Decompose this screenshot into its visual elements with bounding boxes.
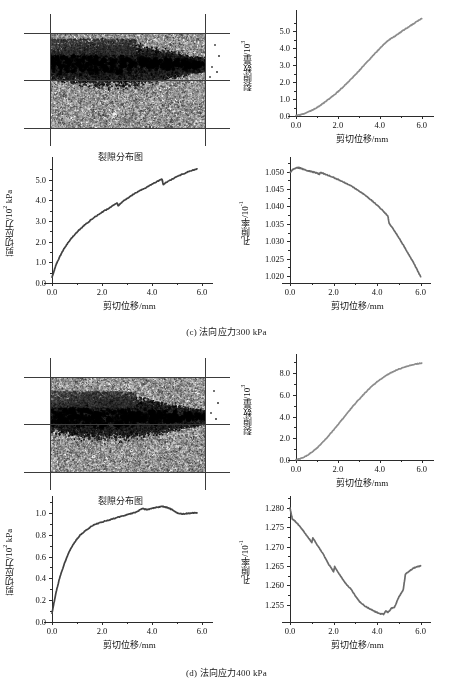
stray-particle bbox=[218, 55, 220, 57]
stray-particle bbox=[210, 412, 212, 414]
shear-box-c bbox=[18, 8, 223, 148]
panel-caption-c: (c) 法向应力300 kPa bbox=[0, 325, 453, 338]
stray-particle bbox=[209, 76, 211, 78]
crack-distribution-figure-c: 裂隙分布图 bbox=[18, 8, 223, 148]
curve-svg bbox=[232, 155, 453, 320]
plot-area: 0.02.04.06.00.02.04.06.08.0剪切位移/mm裂隙数量/1… bbox=[238, 350, 453, 495]
plot-area: 0.02.04.06.00.01.02.03.04.05.0剪切位移/mm剪切应… bbox=[0, 155, 230, 320]
data-curve bbox=[52, 506, 197, 613]
plot-crack-number-d: 0.02.04.06.00.02.04.06.08.0剪切位移/mm裂隙数量/1… bbox=[238, 350, 453, 495]
stray-particle bbox=[216, 71, 218, 73]
plot-crack-number-c: 0.02.04.06.00.01.02.03.04.05.0剪切位移/mm裂隙数… bbox=[238, 6, 453, 151]
curve-svg bbox=[0, 155, 230, 320]
plot-shear-stress-c: 0.02.04.06.00.01.02.03.04.05.0剪切位移/mm剪切应… bbox=[0, 155, 230, 320]
curve-svg bbox=[0, 494, 230, 659]
shear-box-mid-plate-c bbox=[24, 80, 230, 81]
stray-particle bbox=[215, 418, 217, 420]
data-curve bbox=[290, 508, 421, 615]
curve-svg bbox=[238, 6, 453, 151]
stray-particle bbox=[211, 66, 213, 68]
curve-svg bbox=[238, 350, 453, 495]
crack-distribution-figure-d: 裂隙分布图 bbox=[18, 352, 223, 492]
data-curve bbox=[52, 169, 197, 277]
panel-d: 裂隙分布图 0.02.04.06.00.02.04.06.08.0剪切位移/mm… bbox=[0, 344, 453, 684]
stray-particle bbox=[213, 390, 215, 392]
stray-particle bbox=[214, 44, 216, 46]
shear-box-mid-plate-d bbox=[24, 424, 230, 425]
curve-svg bbox=[232, 494, 453, 659]
data-curve bbox=[296, 19, 422, 116]
data-curve bbox=[290, 167, 421, 276]
figure-page: 裂隙分布图 0.02.04.06.00.01.02.03.04.05.0剪切位移… bbox=[0, 0, 453, 684]
plot-porosity-c: 0.02.04.06.01.0201.0251.0301.0351.0401.0… bbox=[232, 155, 453, 320]
panel-caption-d: (d) 法向应力400 kPa bbox=[0, 666, 453, 679]
shear-box-bottom-plate-d bbox=[24, 472, 230, 473]
plot-area: 0.02.04.06.01.2551.2601.2651.2701.2751.2… bbox=[232, 494, 453, 659]
plot-area: 0.02.04.06.00.01.02.03.04.05.0剪切位移/mm裂隙数… bbox=[238, 6, 453, 151]
panel-c: 裂隙分布图 0.02.04.06.00.01.02.03.04.05.0剪切位移… bbox=[0, 0, 453, 340]
plot-area: 0.02.04.06.01.0201.0251.0301.0351.0401.0… bbox=[232, 155, 453, 320]
shear-box-d bbox=[18, 352, 223, 492]
shear-box-top-plate-d bbox=[24, 377, 230, 378]
data-curve bbox=[296, 363, 422, 460]
plot-area: 0.02.04.06.00.00.20.40.60.81.0剪切位移/mm剪切应… bbox=[0, 494, 230, 659]
shear-box-top-plate-c bbox=[24, 33, 230, 34]
plot-porosity-d: 0.02.04.06.01.2551.2601.2651.2701.2751.2… bbox=[232, 494, 453, 659]
plot-shear-stress-d: 0.02.04.06.00.00.20.40.60.81.0剪切位移/mm剪切应… bbox=[0, 494, 230, 659]
stray-particle bbox=[217, 402, 219, 404]
shear-box-bottom-plate-c bbox=[24, 128, 230, 129]
